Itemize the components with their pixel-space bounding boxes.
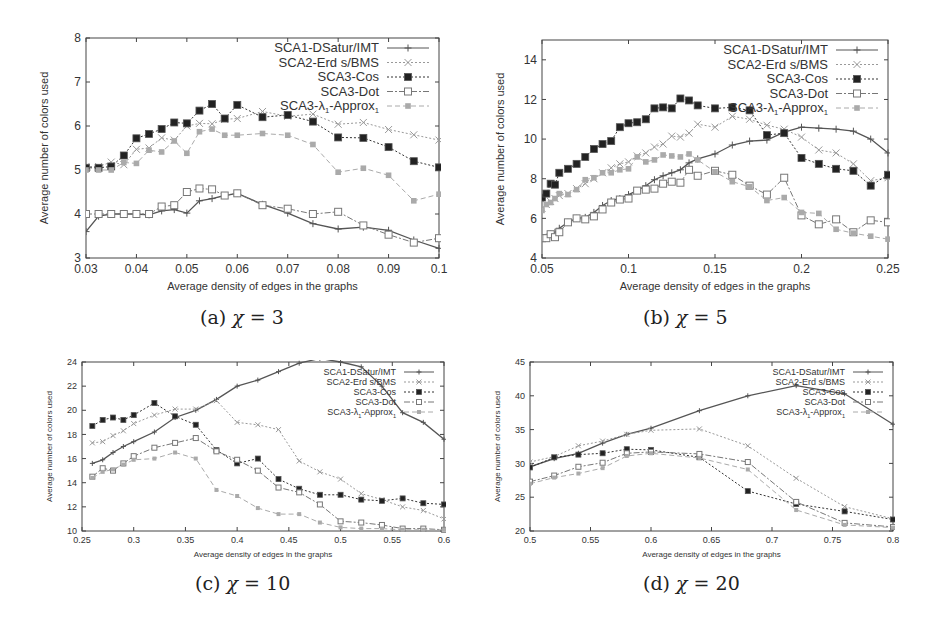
legend-item-2: SCA2-Erd s/BMS: [728, 57, 878, 72]
y-tick-label: 45: [515, 357, 525, 367]
legend-item-4: SCA3-Dot: [320, 84, 429, 99]
x-tick-label: 0.1: [620, 262, 637, 276]
legend: SCA1-DSatur/IMTSCA2-Erd s/BMSSCA3-CosSCA…: [772, 367, 883, 419]
legend-label: SCA2-Erd s/BMS: [728, 57, 829, 72]
series-5: [90, 451, 446, 532]
legend-item-1: SCA1-DSatur/IMT: [323, 367, 434, 377]
y-tick-label: 20: [67, 405, 77, 415]
caption-d-eq: = 20: [694, 572, 740, 594]
y-tick-label: 12: [524, 93, 538, 107]
y-axis-ticks: 468101214: [524, 53, 888, 265]
chart-d-svg: 0.50.550.60.650.70.750.8202530354045Aver…: [470, 320, 940, 580]
x-tick-label: 0.08: [326, 262, 350, 276]
y-tick-label: 25: [515, 492, 525, 502]
x-tick-label: 0.5: [334, 535, 347, 545]
legend-label: SCA2-Erd s/BMS: [279, 55, 380, 70]
chart-panel-b: 0.050.10.150.20.25468101214Average densi…: [470, 0, 940, 310]
y-axis-label: Average number of colors used: [494, 73, 506, 226]
x-tick-label: 0.15: [703, 262, 727, 276]
chart-panel-d: 0.50.550.60.650.70.750.8202530354045Aver…: [470, 320, 940, 580]
legend-item-4: SCA3-Dot: [355, 397, 434, 407]
legend-label: SCA1-DSatur/IMT: [723, 42, 828, 57]
legend-label: SCA3-Cos: [353, 387, 396, 397]
x-tick-label: 0.1: [431, 262, 448, 276]
legend-item-5: SCA3-λ1-Approx1: [776, 407, 883, 419]
y-axis-label: Average number of colors used: [38, 72, 50, 225]
x-tick-label: 0.2: [793, 262, 810, 276]
legend-label: SCA1-DSatur/IMT: [274, 40, 379, 55]
legend-label: SCA3-Dot: [769, 86, 828, 101]
legend-item-3: SCA3-Cos: [767, 71, 878, 86]
y-tick-label: 3: [74, 251, 81, 265]
y-tick-label: 8: [74, 31, 81, 45]
caption-c-eq: = 10: [244, 572, 290, 594]
x-tick-label: 0.75: [824, 535, 842, 545]
legend-label: SCA1-DSatur/IMT: [772, 367, 845, 377]
legend-item-2: SCA2-Erd s/BMS: [279, 55, 429, 70]
series-2: [539, 113, 892, 212]
legend-item-4: SCA3-Dot: [769, 86, 878, 101]
y-tick-label: 7: [74, 75, 81, 89]
caption-d: (d) χ = 20: [643, 572, 740, 594]
legend-item-2: SCA2-Erd s/BMS: [326, 377, 434, 387]
chart-c-svg: 0.250.30.350.40.450.50.550.6101214161820…: [0, 320, 470, 580]
legend-item-3: SCA3-Cos: [802, 387, 883, 397]
y-tick-label: 24: [67, 357, 77, 367]
legend-label: SCA1-DSatur/IMT: [323, 367, 396, 377]
y-tick-label: 14: [524, 53, 538, 67]
x-tick-label: 0.45: [280, 535, 298, 545]
x-tick-label: 0.6: [438, 535, 451, 545]
y-tick-label: 10: [67, 526, 77, 536]
caption-c: (c) χ = 10: [195, 572, 290, 594]
x-tick-label: 0.04: [125, 262, 149, 276]
legend-item-5: SCA3-λ1-Approx1: [729, 100, 878, 117]
legend-item-5: SCA3-λ1-Approx1: [280, 98, 429, 115]
x-tick-label: 0.7: [766, 535, 779, 545]
x-tick-label: 0.25: [876, 262, 900, 276]
y-tick-label: 40: [515, 391, 525, 401]
y-tick-label: 20: [515, 526, 525, 536]
chart-b-svg: 0.050.10.150.20.25468101214Average densi…: [470, 0, 940, 300]
series-3: [539, 95, 892, 201]
series-group: [539, 95, 892, 242]
legend-label: SCA3-Cos: [767, 71, 829, 86]
y-tick-label: 14: [67, 478, 77, 488]
legend: SCA1-DSatur/IMTSCA2-Erd s/BMSSCA3-CosSCA…: [323, 367, 434, 419]
x-axis-label: Average density of edges in the graphs: [642, 550, 781, 559]
legend-label: SCA2-Erd s/BMS: [775, 377, 845, 387]
x-tick-label: 0.35: [177, 535, 195, 545]
chart-panel-c: 0.250.30.350.40.450.50.550.6101214161820…: [0, 320, 470, 580]
x-tick-label: 0.25: [73, 535, 91, 545]
y-tick-label: 4: [530, 251, 537, 265]
y-tick-label: 10: [524, 132, 538, 146]
series-3: [528, 447, 896, 522]
legend-item-1: SCA1-DSatur/IMT: [772, 367, 883, 377]
legend: SCA1-DSatur/IMTSCA2-Erd s/BMSSCA3-CosSCA…: [274, 40, 429, 115]
series-5: [539, 151, 891, 242]
caption-d-symbol: χ: [676, 572, 688, 594]
legend-label: SCA3-λ1-Approx1: [280, 98, 379, 115]
y-tick-label: 12: [67, 502, 77, 512]
legend: SCA1-DSatur/IMTSCA2-Erd s/BMSSCA3-CosSCA…: [723, 42, 878, 117]
chart-a-svg: 0.030.040.050.060.070.080.090.1345678Ave…: [0, 0, 470, 300]
legend-label: SCA3-Dot: [355, 397, 396, 407]
y-axis-label: Average number of colors used: [45, 391, 54, 502]
x-axis-label: Average density of edges in the graphs: [167, 280, 358, 292]
x-tick-label: 0.3: [127, 535, 140, 545]
legend-item-1: SCA1-DSatur/IMT: [723, 42, 878, 57]
series-2: [528, 426, 896, 521]
x-tick-label: 0.05: [175, 262, 199, 276]
y-tick-label: 18: [67, 430, 77, 440]
x-tick-label: 0.55: [384, 535, 402, 545]
chart-panel-a: 0.030.040.050.060.070.080.090.1345678Ave…: [0, 0, 470, 310]
x-tick-label: 0.06: [226, 262, 250, 276]
x-tick-label: 0.5: [524, 535, 537, 545]
caption-c-label: (c): [195, 572, 220, 594]
x-axis-label: Average density of edges in the graphs: [194, 550, 333, 559]
x-tick-label: 0.4: [231, 535, 244, 545]
x-tick-label: 0.09: [377, 262, 401, 276]
y-tick-label: 8: [530, 172, 537, 186]
legend-item-3: SCA3-Cos: [353, 387, 434, 397]
x-tick-label: 0.6: [645, 535, 658, 545]
y-tick-label: 16: [67, 454, 77, 464]
